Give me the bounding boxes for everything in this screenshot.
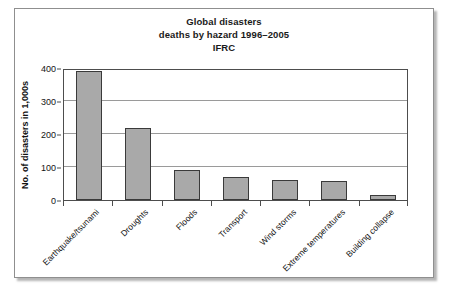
bar-slot xyxy=(113,70,162,200)
bar[interactable] xyxy=(174,170,200,200)
y-axis-tick-mark xyxy=(57,135,61,136)
bar-slot xyxy=(309,70,358,200)
bar[interactable] xyxy=(321,181,347,200)
y-axis-tick-mark xyxy=(57,168,61,169)
plot-wrapper xyxy=(63,69,408,201)
y-axis-tick-label: 400 xyxy=(41,64,56,74)
x-axis-labels: Earthquake/tsunamiDroughtsFloodsTranspor… xyxy=(63,201,408,277)
x-axis-category-label: Wind storms xyxy=(257,207,297,247)
bar-slot xyxy=(358,70,407,200)
x-axis-category-label: Building collapse xyxy=(344,207,396,259)
bar[interactable] xyxy=(76,71,102,200)
bar[interactable] xyxy=(223,177,249,200)
y-axis-tick-label: 0 xyxy=(51,196,56,206)
y-axis-tick-mark xyxy=(57,69,61,70)
x-axis-category-label: Floods xyxy=(174,207,199,232)
chart-title: Global disasters deaths by hazard 1996–2… xyxy=(15,15,433,54)
x-axis-category-label: Transport xyxy=(216,207,249,240)
bar-slot xyxy=(260,70,309,200)
y-axis-tick-label: 100 xyxy=(41,163,56,173)
chart-title-line-3: IFRC xyxy=(15,41,433,54)
chart-title-line-1: Global disasters xyxy=(15,15,433,28)
y-axis-tick-label: 300 xyxy=(41,97,56,107)
bar-series xyxy=(64,70,407,200)
plot-area xyxy=(63,69,408,201)
bar[interactable] xyxy=(125,128,151,200)
bar-slot xyxy=(162,70,211,200)
y-axis-tick-mark xyxy=(57,102,61,103)
x-axis-category-label: Earthquake/tsunami xyxy=(40,207,101,268)
bar[interactable] xyxy=(370,195,396,200)
chart-title-line-2: deaths by hazard 1996–2005 xyxy=(15,28,433,41)
y-axis: 0100200300400 xyxy=(29,69,61,201)
bar[interactable] xyxy=(272,180,298,200)
chart-figure-frame: Global disasters deaths by hazard 1996–2… xyxy=(14,8,434,278)
x-axis-category-label: Droughts xyxy=(119,207,150,238)
y-axis-tick-mark xyxy=(57,201,61,202)
bar-slot xyxy=(211,70,260,200)
y-axis-tick-label: 200 xyxy=(41,130,56,140)
bar-slot xyxy=(64,70,113,200)
